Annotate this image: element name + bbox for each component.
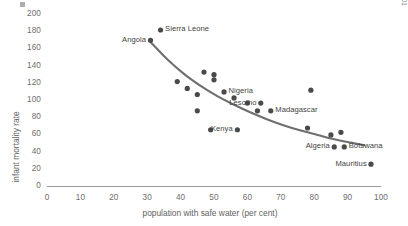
x-tick-label: 60	[235, 193, 259, 202]
data-point[interactable]	[308, 88, 313, 93]
data-point[interactable]	[305, 125, 310, 130]
x-tick-label: 70	[269, 193, 293, 202]
x-tick-label: 100	[369, 193, 393, 202]
x-tick-label: 90	[336, 193, 360, 202]
trendline-path	[151, 42, 365, 145]
x-tick-label: 50	[202, 193, 226, 202]
source-note: Source: UNDP Human Development Report 20…	[401, 0, 408, 6]
data-point-label: Madagascar	[275, 105, 317, 114]
x-tick-label: 80	[302, 193, 326, 202]
data-point[interactable]	[258, 100, 263, 105]
data-point[interactable]	[185, 86, 190, 91]
data-point-label: Mauritius	[335, 159, 366, 168]
y-axis-title: infant mortality rate	[11, 92, 21, 202]
data-point[interactable]	[255, 108, 260, 113]
data-point-label: Sierra Leone	[165, 24, 209, 33]
data-point[interactable]	[211, 72, 216, 77]
x-tick-label: 40	[169, 193, 193, 202]
y-tick-label: 200	[17, 9, 41, 18]
data-point[interactable]	[368, 162, 373, 167]
y-axis-title-wrap: infant mortality rate	[11, 40, 23, 160]
data-point[interactable]	[195, 108, 200, 113]
data-point-label: Algeria	[306, 141, 330, 150]
x-tick-label: 30	[135, 193, 159, 202]
data-points-group	[148, 27, 374, 166]
trendline	[151, 42, 365, 145]
data-point-label: Kenya	[211, 124, 233, 133]
data-point[interactable]	[158, 27, 163, 32]
x-tick-label: 20	[102, 193, 126, 202]
source-note-wrap: Source: UNDP Human Development Report 20…	[386, 2, 400, 182]
data-point[interactable]	[268, 108, 273, 113]
x-axis-title: population with safe water (per cent)	[120, 208, 300, 218]
data-point[interactable]	[342, 144, 347, 149]
data-point[interactable]	[211, 77, 216, 82]
y-tick-label: 180	[17, 26, 41, 35]
data-point[interactable]	[221, 89, 226, 94]
data-point-label: Botswana	[349, 141, 383, 150]
data-point[interactable]	[175, 79, 180, 84]
data-point-label: Lesotho	[229, 98, 256, 107]
x-tick-label: 10	[68, 193, 92, 202]
data-point-label: Angola	[122, 35, 146, 44]
data-point[interactable]	[201, 70, 206, 75]
data-point[interactable]	[338, 130, 343, 135]
data-point[interactable]	[328, 132, 333, 137]
x-tick-label: 0	[35, 193, 59, 202]
data-point[interactable]	[148, 38, 153, 43]
data-point-label: Nigeria	[229, 86, 253, 95]
data-point[interactable]	[195, 92, 200, 97]
data-point[interactable]	[332, 144, 337, 149]
data-point[interactable]	[235, 127, 240, 132]
